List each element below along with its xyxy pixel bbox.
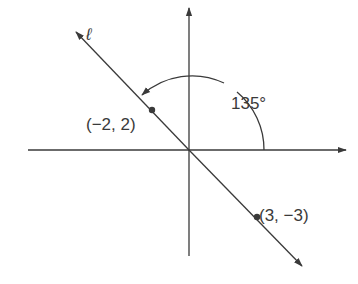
line-label: ℓ	[85, 25, 92, 44]
coordinate-diagram: ℓ 135° (−2, 2) (3, −3)	[0, 0, 358, 284]
point-label-3-neg3: (3, −3)	[259, 206, 309, 225]
angle-label: 135°	[231, 94, 266, 113]
angle-arc-upper	[142, 76, 224, 95]
point-label-neg2-2: (−2, 2)	[86, 115, 136, 134]
point-neg2-2	[149, 107, 155, 113]
